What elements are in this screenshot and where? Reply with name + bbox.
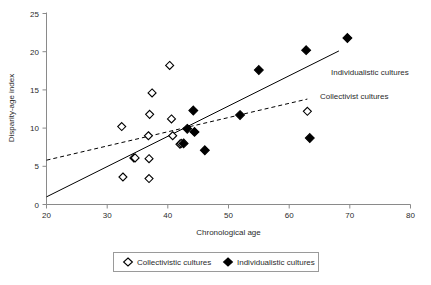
data-point-collectivistic	[144, 132, 152, 140]
data-point-collectivistic	[146, 110, 154, 118]
data-point-individualistic	[305, 134, 314, 143]
x-tick-label-40: 40	[163, 211, 172, 220]
data-point-individualistic	[343, 34, 352, 43]
chart-canvas: 0 5 10 15 20 25 20 30 40 50 60 70 80 Chr…	[0, 0, 431, 285]
y-axis-title: Disparity-age index	[7, 74, 16, 142]
x-tick-label-30: 30	[103, 211, 112, 220]
data-point-collectivistic	[167, 115, 175, 123]
x-axis-title: Chronological age	[196, 228, 261, 237]
trendline-individualistic	[47, 51, 339, 197]
y-tick-label-5: 5	[35, 162, 40, 171]
data-point-collectivistic	[118, 123, 126, 131]
data-point-collectivistic	[303, 107, 311, 115]
data-point-individualistic	[189, 106, 198, 115]
chart-legend: Collectivistic cultures Individualistic …	[114, 253, 319, 272]
x-tick-label-80: 80	[406, 211, 415, 220]
data-point-collectivistic	[148, 89, 156, 97]
data-point-individualistic	[302, 46, 311, 55]
data-point-individualistic	[236, 111, 245, 120]
data-point-collectivistic	[145, 155, 153, 163]
data-point-individualistic	[200, 146, 209, 155]
x-axis-ticks: 20 30 40 50 60 70 80	[42, 205, 415, 221]
legend-label-individualistic: Individualistic cultures	[237, 258, 315, 267]
data-point-collectivistic	[145, 175, 153, 183]
annotation-individualistic: Individualistic cultures	[331, 68, 409, 77]
y-tick-label-25: 25	[30, 10, 39, 19]
trendline-collectivist	[47, 99, 308, 160]
x-tick-label-70: 70	[345, 211, 354, 220]
data-point-individualistic	[254, 66, 263, 75]
data-point-collectivistic	[166, 61, 174, 69]
x-tick-label-50: 50	[224, 211, 233, 220]
y-tick-label-0: 0	[35, 201, 40, 210]
y-tick-label-20: 20	[30, 48, 39, 57]
axes	[47, 13, 411, 205]
y-tick-label-10: 10	[30, 124, 39, 133]
scatter-chart-figure: 0 5 10 15 20 25 20 30 40 50 60 70 80 Chr…	[0, 0, 431, 285]
y-axis-ticks: 0 5 10 15 20 25	[30, 10, 46, 210]
annotation-collectivist: Collectivist cultures	[320, 92, 388, 101]
legend-label-collectivistic: Collectivistic cultures	[137, 258, 211, 267]
y-tick-label-15: 15	[30, 86, 39, 95]
data-point-collectivistic	[119, 173, 127, 181]
trendlines	[47, 51, 339, 197]
x-tick-label-20: 20	[42, 211, 51, 220]
x-tick-label-60: 60	[285, 211, 294, 220]
